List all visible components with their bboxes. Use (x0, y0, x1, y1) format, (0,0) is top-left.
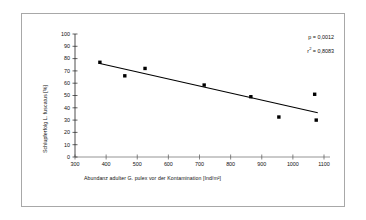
x-tick-label: 1100 (312, 161, 336, 167)
y-tick-label: 70 (48, 68, 70, 74)
y-tick-label: 10 (48, 142, 70, 148)
r-value: = 0,8083 (311, 48, 334, 54)
y-tick-label: 30 (48, 117, 70, 123)
statistics-annotation: p = 0,0012 r2 = 0,8083 (307, 32, 334, 57)
axis-lines (75, 34, 330, 157)
y-tick-label: 40 (48, 105, 70, 111)
x-axis-title: Abundanz adulter G. pulex vor der Kontam… (84, 175, 221, 181)
y-tick-label: 20 (48, 129, 70, 135)
y-tick-label: 100 (48, 31, 70, 37)
x-tick-label: 1000 (281, 161, 305, 167)
plot-stage: 0102030405060708090100 30040050060070080… (22, 14, 346, 208)
tick-marks (73, 34, 325, 160)
x-tick-label: 400 (94, 161, 118, 167)
data-point-markers (98, 61, 318, 122)
p-value-annotation: p = 0,0012 (307, 32, 334, 43)
y-tick-label: 50 (48, 92, 70, 98)
x-tick-label: 800 (219, 161, 243, 167)
regression-trendline (100, 64, 318, 113)
x-tick-label: 900 (250, 161, 274, 167)
x-tick-label: 700 (188, 161, 212, 167)
r-squared-annotation: r2 = 0,8083 (307, 43, 334, 57)
y-tick-label: 60 (48, 80, 70, 86)
y-tick-label: 90 (48, 43, 70, 49)
chart-figure-frame: 0102030405060708090100 30040050060070080… (21, 13, 345, 207)
y-axis-title: Schlupferfolg L. fuscatus [%] (42, 85, 48, 153)
x-tick-label: 300 (63, 161, 87, 167)
x-tick-label: 500 (125, 161, 149, 167)
x-tick-label: 600 (156, 161, 180, 167)
y-tick-label: 0 (48, 154, 70, 160)
y-tick-label: 80 (48, 55, 70, 61)
